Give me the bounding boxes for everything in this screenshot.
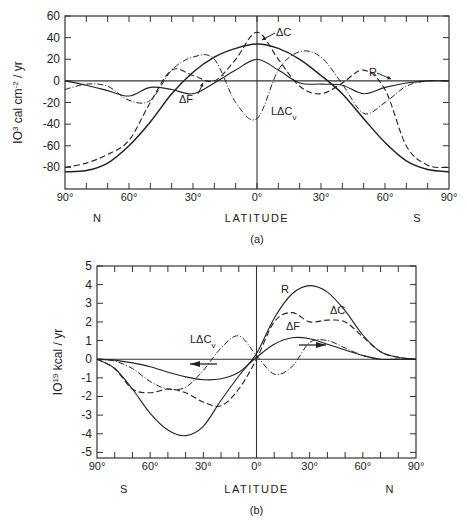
- y-tick-label: -4: [81, 427, 92, 441]
- y-tick-label: 0: [53, 74, 60, 88]
- y-tick-label: -2: [81, 389, 92, 403]
- curve-label: ΔC: [276, 26, 291, 38]
- curve-label: LΔCv: [271, 105, 296, 122]
- chart-panel-b: 543210-1-2-3-4-590°60°30°0°30°60°90°LATI…: [51, 259, 425, 516]
- y-tick-label: 5: [85, 259, 92, 273]
- y-tick-label: 4: [85, 278, 92, 292]
- y-tick-label: -5: [81, 445, 92, 459]
- y-tick-label: 1: [85, 334, 92, 348]
- x-tick-label: 30°: [313, 191, 330, 203]
- y-tick-label: 60: [47, 9, 61, 23]
- x-tick-label: 30°: [301, 460, 318, 472]
- x-tick-label: 0°: [251, 460, 262, 472]
- y-tick-label: 40: [47, 31, 61, 45]
- panel-label: (a): [250, 233, 263, 245]
- x-tick-label: 90°: [441, 191, 458, 203]
- x-tick-label: 60°: [377, 191, 394, 203]
- y-tick-label: 2: [85, 315, 92, 329]
- x-tick-label: 60°: [142, 460, 159, 472]
- x-tick-label: 60°: [355, 460, 372, 472]
- y-tick-label: -1: [81, 371, 92, 385]
- x-tick-label: 30°: [185, 191, 202, 203]
- curve-label: ΔF: [179, 93, 193, 105]
- y-tick-label: -60: [43, 139, 61, 153]
- hemisphere-right-label: S: [413, 212, 420, 224]
- curve-label: R: [281, 283, 289, 295]
- y-tick-label: -3: [81, 408, 92, 422]
- y-tick-label: -20: [43, 96, 61, 110]
- chart-panel-a: 6040200-20-40-60-8090°60°30°0°30°60°90°L…: [11, 9, 458, 245]
- x-tick-label: 90°: [89, 460, 106, 472]
- y-tick-label: 3: [85, 296, 92, 310]
- x-axis-title: LATITUDE: [224, 483, 288, 495]
- curve-label: ΔF: [286, 320, 300, 332]
- curve-label: LΔCv: [190, 333, 215, 350]
- y-tick-label: 0: [85, 352, 92, 366]
- y-tick-label: -80: [43, 160, 61, 174]
- hemisphere-left-label: S: [120, 483, 127, 495]
- curve-label: R: [369, 66, 377, 78]
- panel-label: (b): [250, 504, 263, 516]
- y-axis-title: IO3 cal cm-2 / yr: [11, 61, 26, 143]
- figure: 6040200-20-40-60-8090°60°30°0°30°60°90°L…: [0, 0, 467, 530]
- x-tick-label: 0°: [252, 191, 263, 203]
- x-tick-label: 30°: [195, 460, 212, 472]
- x-axis-title: LATITUDE: [225, 212, 289, 224]
- y-axis-title: IO19 kcal / yr: [51, 329, 66, 395]
- y-tick-label: 20: [47, 52, 61, 66]
- arrowhead-icon: [190, 361, 200, 367]
- x-tick-label: 90°: [408, 460, 425, 472]
- x-tick-label: 90°: [57, 191, 74, 203]
- x-tick-label: 60°: [121, 191, 138, 203]
- hemisphere-left-label: N: [93, 212, 101, 224]
- y-tick-label: -40: [43, 117, 61, 131]
- curve-label: ΔC: [330, 304, 345, 316]
- hemisphere-right-label: N: [385, 483, 393, 495]
